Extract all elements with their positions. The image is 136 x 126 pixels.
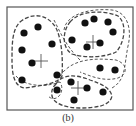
data-point [104, 18, 111, 25]
data-point [111, 66, 118, 73]
data-point [20, 29, 27, 36]
data-point [70, 96, 77, 103]
data-point [53, 86, 60, 93]
data-point [109, 28, 116, 35]
data-point [67, 78, 74, 85]
data-point [83, 84, 90, 91]
data-point [83, 43, 90, 50]
data-point [81, 19, 88, 26]
data-point [34, 23, 41, 30]
cluster-diagram [0, 0, 136, 126]
data-point [48, 40, 55, 47]
data-point [90, 15, 97, 22]
figure-caption: (b) [0, 112, 136, 124]
data-point [18, 76, 25, 83]
data-point [99, 88, 106, 95]
data-point [68, 36, 75, 43]
data-point [96, 39, 103, 46]
data-point [96, 64, 103, 71]
data-point [53, 71, 60, 78]
data-point [18, 46, 25, 53]
data-point [28, 59, 35, 66]
